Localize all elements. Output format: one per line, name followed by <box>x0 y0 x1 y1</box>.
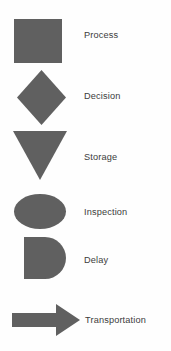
legend-label-transportation: Transportation <box>85 315 146 326</box>
legend-label-process: Process <box>84 30 118 41</box>
transportation-arrow-shape <box>12 304 80 336</box>
delay-d-shape <box>24 237 66 279</box>
decision-diamond-shape <box>17 70 66 125</box>
legend-label-inspection: Inspection <box>84 207 127 218</box>
legend-label-delay: Delay <box>84 255 108 266</box>
storage-triangle-shape <box>13 131 67 180</box>
flowchart-symbol-legend: Process Decision Storage Inspection Dela… <box>0 0 171 351</box>
inspection-ellipse-shape <box>14 194 66 229</box>
legend-label-storage: Storage <box>84 152 117 163</box>
legend-label-decision: Decision <box>84 91 120 102</box>
process-square-shape <box>14 19 62 63</box>
